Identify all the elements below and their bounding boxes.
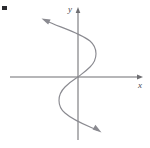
y-axis-arrowhead-icon <box>76 7 81 13</box>
y-axis-label: y <box>67 4 72 14</box>
curve-upper-left-arrowhead-icon <box>42 18 51 24</box>
x-axis-label: x <box>137 80 142 90</box>
x-axis-arrowhead-icon <box>137 75 143 80</box>
curve-lower-right-arrowhead-icon <box>93 125 102 133</box>
graph-figure: y x <box>0 0 150 148</box>
sine-curve <box>45 21 97 131</box>
figure-container: y x <box>0 0 150 148</box>
corner-mark <box>2 6 7 10</box>
